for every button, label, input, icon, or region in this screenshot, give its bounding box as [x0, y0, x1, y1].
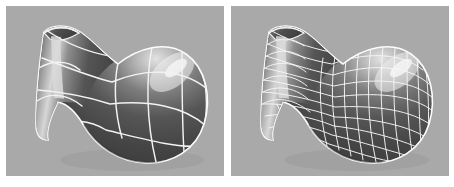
panel-right-fine-mesh: [231, 6, 449, 176]
coarse-mesh-render: [6, 6, 224, 176]
panel-left-coarse-mesh: [6, 6, 224, 176]
caption-strip: [0, 176, 454, 187]
figure-container: [0, 0, 454, 187]
fine-mesh-render: [231, 6, 449, 176]
